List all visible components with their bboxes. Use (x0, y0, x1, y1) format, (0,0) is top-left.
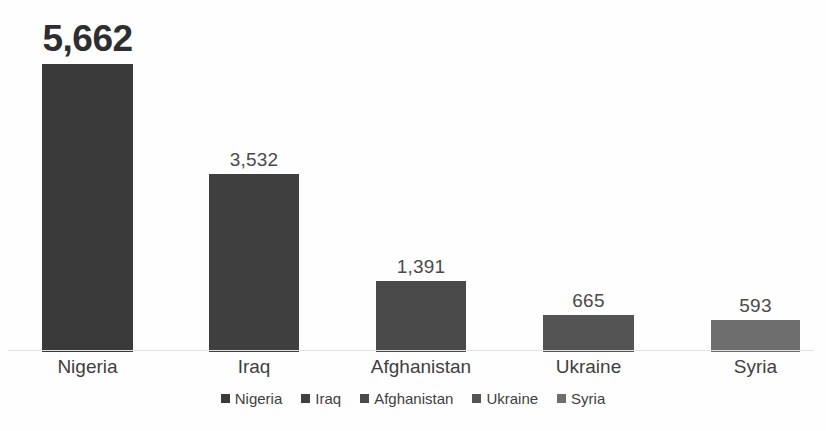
legend-item-syria[interactable]: Syria (557, 390, 605, 407)
bar[interactable] (209, 174, 299, 352)
bar-value-label: 593 (739, 295, 771, 317)
bar-group: 665 (543, 269, 634, 352)
legend-item-nigeria[interactable]: Nigeria (221, 390, 283, 407)
bar-value-label: 1,391 (397, 256, 446, 278)
legend-label: Nigeria (235, 390, 283, 407)
category-label-syria: Syria (691, 356, 820, 378)
bar[interactable] (711, 320, 800, 352)
legend-label: Afghanistan (374, 390, 453, 407)
legend-label: Ukraine (486, 390, 538, 407)
category-label-ukraine: Ukraine (523, 356, 654, 378)
plot-area: 5,6623,5321,391665593 (0, 0, 826, 352)
bar-chart: 5,6623,5321,391665593 NigeriaIraqAfghani… (0, 0, 826, 431)
bar[interactable] (376, 281, 466, 352)
category-axis: NigeriaIraqAfghanistanUkraineSyria (0, 356, 826, 384)
bar[interactable] (543, 315, 634, 352)
legend-item-iraq[interactable]: Iraq (301, 390, 341, 407)
bar-group: 1,391 (376, 235, 466, 352)
legend-swatch-icon (360, 394, 369, 403)
legend-swatch-icon (221, 394, 230, 403)
legend-label: Syria (571, 390, 605, 407)
chart-legend: NigeriaIraqAfghanistanUkraineSyria (0, 390, 826, 407)
bar-value-label: 3,532 (230, 149, 279, 171)
legend-item-ukraine[interactable]: Ukraine (472, 390, 538, 407)
category-label-nigeria: Nigeria (22, 356, 153, 378)
legend-label: Iraq (315, 390, 341, 407)
category-label-iraq: Iraq (189, 356, 319, 378)
legend-item-afghanistan[interactable]: Afghanistan (360, 390, 453, 407)
bar[interactable] (42, 64, 133, 352)
bar-value-label: 665 (572, 290, 604, 312)
legend-swatch-icon (472, 394, 481, 403)
legend-swatch-icon (301, 394, 310, 403)
bar-group: 593 (711, 274, 800, 352)
axis-baseline (8, 350, 814, 351)
bar-group: 3,532 (209, 128, 299, 352)
bar-value-label: 5,662 (42, 18, 132, 60)
legend-swatch-icon (557, 394, 566, 403)
category-label-afghanistan: Afghanistan (356, 356, 486, 378)
bar-group: 5,662 (42, 18, 133, 352)
